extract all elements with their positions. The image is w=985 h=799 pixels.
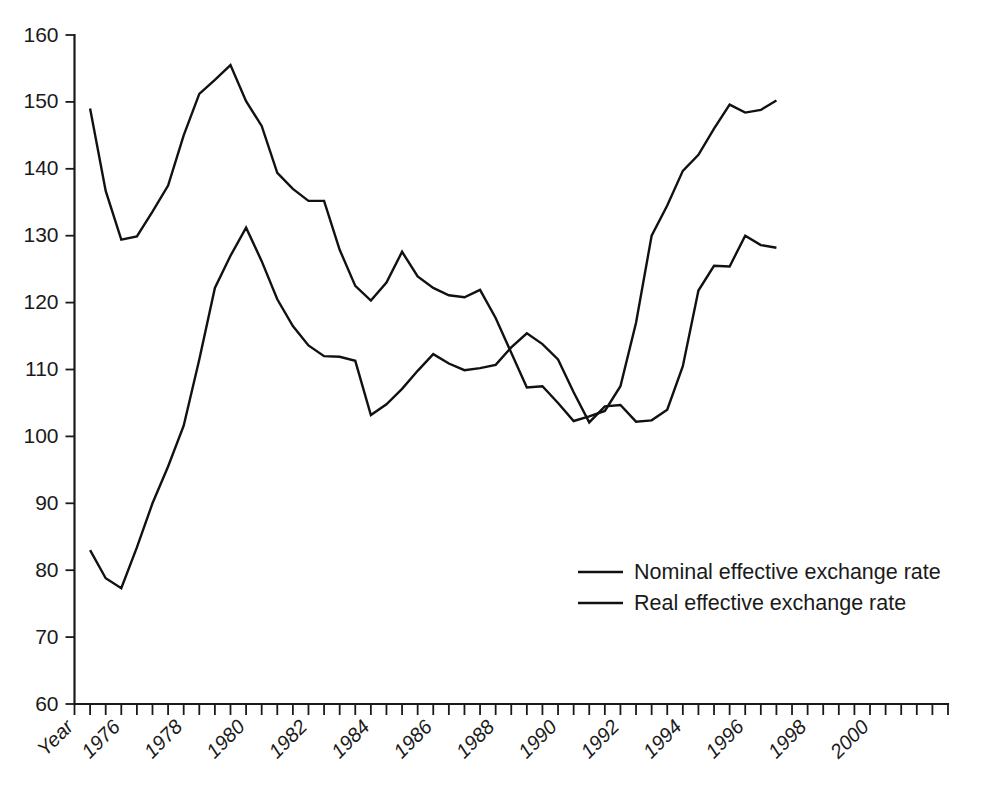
legend-label-real: Real effective exchange rate — [634, 591, 906, 615]
plot-background — [0, 0, 985, 799]
y-tick-label: 80 — [35, 558, 58, 581]
y-tick-label: 130 — [23, 223, 58, 246]
y-tick-label: 160 — [23, 23, 58, 46]
y-tick-label: 140 — [23, 156, 58, 179]
y-tick-label: 60 — [35, 692, 58, 715]
y-tick-label: 110 — [25, 357, 58, 380]
legend-label-nominal: Nominal effective exchange rate — [634, 560, 941, 584]
y-tick-label: 100 — [23, 424, 58, 447]
y-tick-label: 90 — [35, 491, 58, 514]
y-tick-label: 150 — [23, 89, 58, 112]
y-tick-label: 70 — [35, 625, 58, 648]
line-chart: 60708090100110120130140150160 Year197619… — [0, 0, 985, 799]
y-tick-label: 120 — [23, 290, 58, 313]
chart-container: 60708090100110120130140150160 Year197619… — [0, 0, 985, 799]
